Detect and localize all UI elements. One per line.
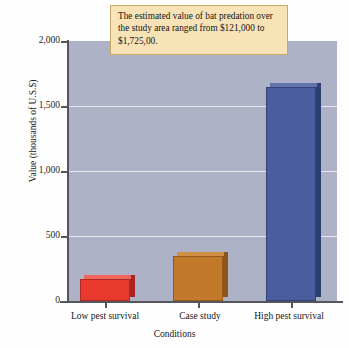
bar-face-high [266,87,316,301]
y-tick-1000 [61,171,68,173]
y-tick-2000 [61,41,68,43]
bar-top-case [177,252,224,256]
bar-side-high [316,83,321,297]
plot-area [68,41,337,301]
bar-chart-figure: 2,000 1,500 1,000 500 0 Value (thousands… [0,0,349,348]
bar-high-pest-survival[interactable] [266,87,316,301]
bar-top-high [270,83,317,87]
bar-face-low [80,279,130,301]
bar-face-case [173,256,223,301]
bar-case-study[interactable] [173,256,223,301]
y-tick-label-500: 500 [4,231,60,241]
annotation-text: The estimated value of bat predation ove… [118,10,281,47]
y-tick-label-0: 0 [4,296,60,306]
x-label-high-pest-survival: High pest survival [230,311,348,321]
y-tick-500 [61,236,68,238]
x-tick-case [198,302,200,308]
y-axis-title: Value (thousands of U.S.$) [28,36,38,226]
bar-top-low [84,275,131,279]
bar-side-case [223,252,228,297]
x-tick-high [291,302,293,308]
y-tick-0 [61,301,68,303]
x-tick-low [105,302,107,308]
annotation-callout: The estimated value of bat predation ove… [110,5,288,55]
bar-low-pest-survival[interactable] [80,279,130,301]
x-axis-title: Conditions [0,329,349,339]
x-axis-line [60,301,343,303]
y-tick-1500 [61,106,68,108]
